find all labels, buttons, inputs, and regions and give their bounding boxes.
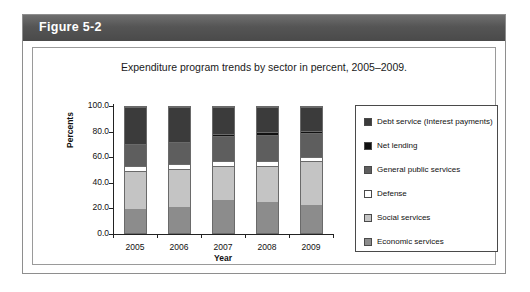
stacked-bar[interactable] bbox=[212, 106, 235, 234]
bar-segment bbox=[257, 166, 278, 201]
y-axis-tick-label: 40.0 bbox=[92, 177, 109, 187]
y-axis-tick-label: 80.0 bbox=[92, 126, 109, 136]
legend-swatch-icon bbox=[364, 166, 372, 174]
stacked-bar[interactable] bbox=[124, 106, 147, 234]
bar-segment bbox=[301, 133, 322, 157]
figure-titlebar: Figure 5-2 bbox=[23, 15, 505, 41]
bar-segment bbox=[169, 142, 190, 163]
y-axis-tick-labels: 0.020.040.060.080.0100.0 bbox=[65, 106, 109, 234]
x-axis-tick-label: 2005 bbox=[115, 242, 155, 252]
stacked-bar[interactable] bbox=[300, 106, 323, 234]
y-axis-tick bbox=[109, 208, 113, 209]
figure-number-label: Figure 5-2 bbox=[39, 20, 102, 34]
stacked-bar[interactable] bbox=[256, 106, 279, 234]
bar-segment bbox=[213, 166, 234, 200]
bar-segment bbox=[301, 107, 322, 131]
legend-item[interactable]: Debt service (Interest payments) bbox=[364, 117, 493, 126]
bar-segment bbox=[301, 205, 322, 233]
legend-swatch-icon bbox=[364, 118, 372, 126]
bar-segment bbox=[125, 144, 146, 167]
legend-swatch-icon bbox=[364, 238, 372, 246]
legend-item-label: Social services bbox=[377, 213, 430, 222]
legend-item[interactable]: Net lending bbox=[364, 141, 417, 150]
legend-swatch-icon bbox=[364, 190, 372, 198]
legend-item-label: Net lending bbox=[377, 141, 417, 150]
stacked-bar[interactable] bbox=[168, 106, 191, 234]
bar-segment bbox=[257, 202, 278, 234]
bar-segment bbox=[257, 107, 278, 132]
y-axis-line bbox=[113, 104, 114, 236]
bar-segment bbox=[213, 200, 234, 233]
legend-swatch-icon bbox=[364, 214, 372, 222]
y-axis-tick-label: 0.0 bbox=[97, 228, 109, 238]
legend-swatch-icon bbox=[364, 142, 372, 150]
y-axis-tick bbox=[109, 132, 113, 133]
x-axis-tick bbox=[157, 234, 158, 238]
bar-segment bbox=[125, 107, 146, 144]
bar-segment bbox=[213, 107, 234, 133]
bar-segment bbox=[213, 136, 234, 161]
legend-item-label: General public services bbox=[377, 165, 460, 174]
bar-segment bbox=[125, 209, 146, 233]
legend-item[interactable]: Defense bbox=[364, 189, 407, 198]
y-axis-tick-label: 100.0 bbox=[88, 100, 109, 110]
chart-title: Expenditure program trends by sector in … bbox=[33, 61, 495, 73]
x-axis-tick-label: 2006 bbox=[159, 242, 199, 252]
bar-segment bbox=[125, 171, 146, 209]
plot-area: 0.020.040.060.080.0100.0 200520062007200… bbox=[113, 106, 333, 234]
legend-item-label: Debt service (Interest payments) bbox=[377, 117, 493, 126]
x-axis-tick bbox=[333, 234, 334, 238]
x-axis-tick-label: 2009 bbox=[291, 242, 331, 252]
bar-segment bbox=[301, 161, 322, 205]
legend-item-label: Economic services bbox=[377, 237, 444, 246]
x-axis-tick bbox=[245, 234, 246, 238]
y-axis-tick bbox=[109, 106, 113, 107]
y-axis-tick-label: 60.0 bbox=[92, 151, 109, 161]
x-axis-title: Year bbox=[113, 253, 333, 263]
x-axis-tick bbox=[113, 234, 114, 238]
x-axis-tick-label: 2007 bbox=[203, 242, 243, 252]
chart-panel: Expenditure program trends by sector in … bbox=[32, 47, 496, 265]
y-axis-tick bbox=[109, 183, 113, 184]
x-axis-tick-label: 2008 bbox=[247, 242, 287, 252]
legend-item-label: Defense bbox=[377, 189, 407, 198]
y-axis-tick-label: 20.0 bbox=[92, 202, 109, 212]
bar-segment bbox=[257, 135, 278, 161]
chart-legend: Debt service (Interest payments)Net lend… bbox=[355, 105, 498, 252]
x-axis-tick bbox=[289, 234, 290, 238]
bar-segment bbox=[169, 207, 190, 233]
legend-item[interactable]: Social services bbox=[364, 213, 430, 222]
x-axis-line bbox=[112, 234, 334, 235]
bar-segment bbox=[169, 169, 190, 207]
figure-card: Figure 5-2 Expenditure program trends by… bbox=[22, 14, 506, 274]
legend-item[interactable]: General public services bbox=[364, 165, 460, 174]
legend-item[interactable]: Economic services bbox=[364, 237, 444, 246]
x-axis-tick bbox=[201, 234, 202, 238]
bar-segment bbox=[169, 107, 190, 142]
y-axis-tick bbox=[109, 157, 113, 158]
